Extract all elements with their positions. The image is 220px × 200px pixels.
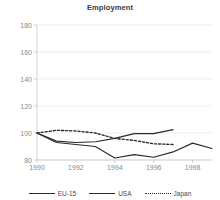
y-tick-80: 80 (24, 157, 32, 164)
x-axis-tick-labels: 19901992199419961998 (29, 164, 200, 171)
y-axis-tick-labels: 80100120140160180 (20, 22, 32, 164)
data-series (37, 130, 212, 158)
y-tick-140: 140 (20, 76, 32, 83)
plot-area: 80100120140160180 19901992199419961998 (0, 0, 220, 200)
legend-item-eu15: EU-15 (29, 190, 76, 197)
legend-swatch-eu15 (29, 193, 55, 194)
axis-lines (34, 25, 212, 163)
legend-item-japan: Japan (145, 190, 192, 197)
x-tick-1994: 1994 (107, 164, 123, 171)
chart-legend: EU-15 USA Japan (0, 190, 220, 197)
series-line-usa (37, 130, 173, 143)
legend-label-usa: USA (118, 190, 131, 197)
y-tick-100: 100 (20, 130, 32, 137)
legend-item-usa: USA (89, 190, 131, 197)
legend-label-eu15: EU-15 (58, 190, 76, 197)
legend-label-japan: Japan (174, 190, 192, 197)
employment-chart: Employment 80100120140160180 19901992199… (0, 0, 220, 200)
legend-swatch-usa (89, 193, 115, 194)
x-tick-1998: 1998 (185, 164, 201, 171)
legend-swatch-japan (145, 193, 171, 194)
x-tick-1992: 1992 (68, 164, 84, 171)
y-tick-120: 120 (20, 103, 32, 110)
y-tick-160: 160 (20, 49, 32, 56)
y-tick-180: 180 (20, 22, 32, 29)
series-line-eu-15 (37, 133, 212, 158)
x-tick-1996: 1996 (146, 164, 162, 171)
x-tick-1990: 1990 (29, 164, 45, 171)
